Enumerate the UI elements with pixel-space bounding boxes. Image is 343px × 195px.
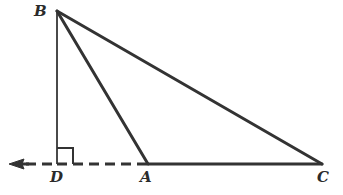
segment-bc — [57, 11, 322, 164]
vertex-label-a: A — [140, 170, 152, 185]
vertex-label-b: B — [34, 4, 47, 19]
segment-ba — [57, 11, 148, 164]
vertex-label-d: D — [50, 170, 63, 185]
geometry-canvas — [0, 0, 343, 195]
right-angle-marker-icon — [57, 148, 73, 164]
arrow-left-icon — [9, 159, 24, 169]
geometry-figure: B D A C — [0, 0, 343, 195]
vertex-label-c: C — [317, 170, 329, 185]
